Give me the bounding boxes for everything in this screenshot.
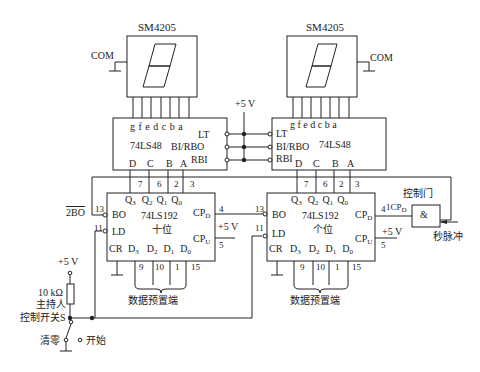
ground-icon — [357, 62, 375, 71]
switch-vcc-label: +5 V — [58, 256, 79, 267]
and-symbol: & — [420, 209, 428, 220]
counter-tens-model: 74LS192 — [141, 210, 178, 221]
ground-icon — [271, 261, 283, 275]
pin-7: 7 — [304, 179, 309, 189]
display-right-model: SM4205 — [306, 21, 344, 33]
preset-label-units: 数据预置端 — [290, 294, 340, 306]
decoder-left-bi: BI/RBO — [171, 141, 204, 152]
junction-dot — [90, 316, 94, 320]
pin-15: 15 — [352, 262, 362, 272]
decoder-right-bi: BI/RBO — [276, 141, 309, 152]
brace — [294, 285, 348, 293]
decoder-right-b: B — [332, 158, 339, 169]
display-left-model: SM4205 — [138, 21, 176, 33]
pin-9: 9 — [300, 262, 305, 272]
junction-dot — [68, 316, 72, 320]
vcc-bus: +5 V — [225, 98, 272, 162]
decoder-right-c: C — [313, 158, 320, 169]
lt-bi-rbi-wires — [229, 134, 270, 160]
junction-dot — [242, 132, 246, 136]
counter-tens-role: 十位 — [152, 223, 172, 235]
counter-tens-cr: CR — [109, 243, 123, 254]
vcc-cpu-tens: +5 V — [218, 221, 239, 232]
switch-wire — [70, 304, 252, 318]
counter-tens: 7 6 2 3 Q3Q2Q1Q0 74LS192 十位 BO LD CR D3D… — [66, 179, 253, 310]
counter-units-role: 个位 — [313, 223, 333, 235]
vcc-top-label: +5 V — [235, 98, 256, 109]
pin-5: 5 — [381, 240, 386, 250]
brace — [135, 285, 186, 293]
vcc-cpu-units: +5 V — [382, 226, 403, 237]
decoder-right: g f e d c b a 74LS48 LT BI/RBO RBI D C B… — [272, 118, 386, 170]
switch-blade[interactable] — [66, 324, 71, 338]
counter-units: 7 6 2 3 Q3Q2Q1Q0 74LS192 个位 BO LD CR D3D… — [252, 179, 412, 318]
pin-6: 6 — [323, 179, 328, 189]
counter-units-bo: BO — [272, 209, 286, 220]
pin-6: 6 — [157, 179, 162, 189]
decoder-left-b: B — [166, 158, 173, 169]
counter-tens-bo: BO — [112, 209, 126, 220]
decoder-right-rbi: RBI — [276, 153, 293, 164]
segment-wires-right — [293, 97, 349, 118]
pin-7: 7 — [138, 179, 143, 189]
pin-10: 10 — [155, 262, 165, 272]
pin-13: 13 — [95, 204, 105, 214]
pin-10: 10 — [316, 262, 326, 272]
start-label: 开始 — [86, 334, 106, 346]
decoder-left: g f e d c b a 74LS48 LT BI/RBO RBI D C B… — [113, 118, 227, 170]
pin-3: 3 — [355, 179, 360, 189]
pin-1: 1 — [335, 262, 340, 272]
countdown-timer-circuit: SM4205 COM SM4205 COM g f e d c b a 74LS… — [0, 0, 480, 372]
pin-5: 5 — [219, 240, 224, 250]
decoder-left-a: A — [180, 158, 188, 169]
switch-label-line2: 控制开关S — [20, 311, 66, 323]
counter-units-ld: LD — [272, 228, 285, 239]
pin-3: 3 — [190, 179, 195, 189]
decoder-left-lt: LT — [198, 129, 209, 140]
ld-wire-units — [252, 236, 262, 318]
segment-wires-left — [133, 97, 189, 118]
second-pulse-label: 秒脉冲 — [433, 230, 463, 242]
pin-1: 1 — [175, 262, 180, 272]
decoder-left-seg-pins: g f e d c b a — [130, 121, 183, 132]
preset-label-tens: 数据预置端 — [128, 294, 178, 306]
display-left: SM4205 COM — [91, 21, 197, 118]
ld-wire-tens — [95, 231, 102, 310]
decoder-left-model: 74LS48 — [130, 140, 162, 151]
decoder-right-model: 74LS48 — [319, 139, 351, 150]
control-gate-label: 控制门 — [403, 187, 433, 199]
display-right-com: COM — [370, 52, 393, 63]
pin-2: 2 — [339, 179, 344, 189]
pin-15: 15 — [191, 262, 201, 272]
junction-dot — [242, 158, 246, 162]
pin-9: 9 — [139, 262, 144, 272]
decoder-left-d: D — [129, 158, 136, 169]
decoder-right-d: D — [295, 158, 302, 169]
counter-units-model: 74LS192 — [302, 210, 339, 221]
pin-4: 4 — [219, 204, 224, 214]
ground-icon — [60, 342, 72, 351]
control-gate-input-label: 1CPD — [386, 202, 407, 214]
counter-tens-ld: LD — [112, 226, 125, 237]
arrow-icon — [440, 220, 447, 224]
switch-label-line1: 主持人 — [36, 298, 66, 310]
resistor-label: 10 kΩ — [38, 287, 63, 298]
counter-units-cr: CR — [269, 243, 283, 254]
pin-11: 11 — [255, 223, 264, 233]
ground-icon — [109, 62, 127, 71]
ground-icon — [111, 261, 123, 275]
decoder-left-c: C — [147, 158, 154, 169]
display-left-com: COM — [91, 50, 114, 61]
decoder-right-lt: LT — [276, 128, 287, 139]
decoder-right-seg-pins: g f e d c b a — [290, 119, 337, 130]
bo-ext-label: 2BO — [66, 207, 85, 218]
clear-label: 清零 — [40, 334, 60, 346]
display-right: SM4205 COM — [287, 21, 393, 118]
junction-dot — [242, 145, 246, 149]
resistor-icon — [67, 284, 74, 304]
decoder-left-rbi: RBI — [191, 154, 208, 165]
pin-2: 2 — [174, 179, 179, 189]
decoder-right-a: A — [347, 158, 355, 169]
